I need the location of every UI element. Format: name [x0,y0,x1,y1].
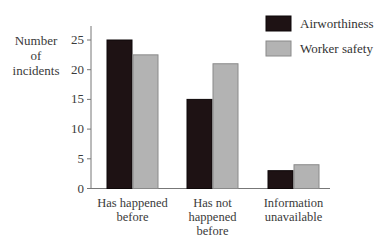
bar-airworthiness [107,40,132,189]
x-category-label-line: happened [168,210,258,224]
y-tick-label: 25 [62,33,84,46]
x-category-label: Has happenedbefore [88,196,178,224]
legend-label: Airworthiness [300,17,374,31]
y-tick-label: 20 [62,63,84,76]
legend-swatch-worker-safety [266,41,291,56]
x-category-label-line: Information [249,196,339,210]
bar-airworthiness [187,99,212,188]
y-tick-label: 15 [62,92,84,105]
x-category-label-line: unavailable [249,210,339,224]
x-category-label-line: before [168,224,258,238]
legend-label: Worker safety [300,42,373,56]
bar-worker-safety [213,64,238,189]
y-tick-label: 5 [62,152,84,165]
x-category-label: Has nothappenedbefore [168,196,258,238]
x-category-label-line: before [88,210,178,224]
bar-chart: Number of incidents 0510152025Has happen… [0,0,389,248]
bar-worker-safety [133,55,158,189]
x-category-label-line: Has happened [88,196,178,210]
legend-swatch-airworthiness [266,16,291,31]
y-tick-label: 10 [62,122,84,135]
bar-airworthiness [268,171,293,189]
x-category-label: Informationunavailable [249,196,339,224]
bar-worker-safety [294,165,319,189]
y-tick-label: 0 [62,182,84,195]
x-category-label-line: Has not [168,196,258,210]
